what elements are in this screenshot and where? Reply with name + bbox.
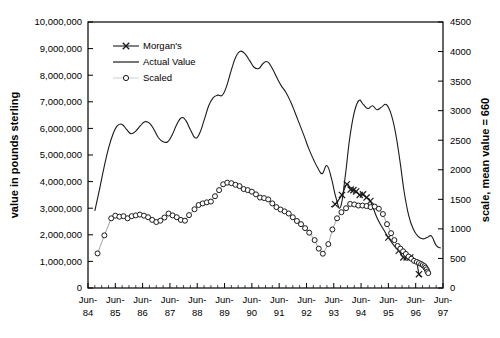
data-point-marker [182,218,187,223]
y-axis-right-title: scale, mean value = 660 [479,98,491,222]
data-point-marker [389,231,394,236]
data-point-marker [344,206,349,211]
x-tick-label-year: 97 [438,307,449,318]
x-tick-label: Jun- [352,294,370,305]
y2-tick-label: 0 [450,282,455,293]
data-point-marker [208,199,213,204]
legend-label: Morgan's [143,40,182,51]
y-tick-label: 4,000,000 [40,176,82,187]
y2-tick-label: 2500 [450,135,471,146]
data-point-marker [217,188,222,193]
x-tick-label: Jun- [434,294,452,305]
x-tick-label: Jun- [215,294,233,305]
x-tick-label-year: 93 [328,307,339,318]
data-point-marker [270,201,275,206]
data-point-marker [339,210,344,215]
y2-tick-label: 3000 [450,105,471,116]
x-tick-label: Jun- [79,294,97,305]
y-tick-label: 7,000,000 [40,96,82,107]
data-point-marker [266,197,271,202]
x-tick-label-year: 86 [137,307,148,318]
data-point-marker [312,238,317,243]
data-point-marker [303,226,308,231]
y-tick-label: 5,000,000 [40,149,82,160]
y2-tick-label: 1000 [450,223,471,234]
x-tick-label-year: 89 [219,307,230,318]
x-tick-label-year: 94 [356,307,367,318]
x-tick-label: Jun- [270,294,288,305]
data-point-marker [192,207,197,212]
y-tick-label: 3,000,000 [40,203,82,214]
legend-label: Scaled [143,72,172,83]
legend-circle-marker [123,75,128,80]
y2-tick-label: 4500 [450,16,471,27]
y-tick-label: 8,000,000 [40,70,82,81]
data-point-marker [335,216,340,221]
x-tick-label: Jun- [243,294,261,305]
data-point-marker [392,238,397,243]
x-tick-label-year: 85 [110,307,121,318]
x-tick-label: Jun- [188,294,206,305]
y-tick-label: 6,000,000 [40,123,82,134]
line-chart: 01,000,0002,000,0003,000,0004,000,0005,0… [0,0,500,338]
x-tick-label-year: 92 [301,307,312,318]
x-tick-label: Jun- [106,294,124,305]
y-tick-label: 9,000,000 [40,43,82,54]
x-tick-label-year: 95 [383,307,394,318]
data-point-marker [316,246,321,251]
y2-tick-label: 4000 [450,46,471,57]
y2-tick-label: 500 [450,253,466,264]
data-point-marker [376,206,381,211]
y-axis-title: value in pounds sterling [8,92,20,219]
x-tick-label: Jun- [406,294,424,305]
chart-container: 01,000,0002,000,0003,000,0004,000,0005,0… [0,0,500,338]
x-tick-label-year: 90 [247,307,258,318]
y-tick-label: 10,000,000 [34,16,82,27]
data-point-marker [290,215,295,220]
x-tick-label-year: 91 [274,307,285,318]
data-point-marker [162,215,167,220]
legend-label: Actual Value [143,56,196,67]
y2-tick-label: 3500 [450,76,471,87]
x-tick-label-year: 96 [410,307,421,318]
x-tick-label: Jun- [161,294,179,305]
x-tick-label: Jun- [379,294,397,305]
data-point-marker [299,222,304,227]
x-tick-label: Jun- [297,294,315,305]
x-tick-label-year: 84 [83,307,94,318]
data-point-marker [385,222,390,227]
data-point-marker [326,242,331,247]
data-point-marker [330,227,335,232]
y-tick-label: 1,000,000 [40,256,82,267]
data-point-marker [95,251,100,256]
y2-tick-label: 1500 [450,194,471,205]
data-point-marker [187,213,192,218]
data-point-marker [286,211,291,216]
y2-tick-label: 2000 [450,164,471,175]
x-tick-label: Jun- [133,294,151,305]
x-tick-label: Jun- [325,294,343,305]
data-point-marker [307,230,312,235]
x-tick-label-year: 88 [192,307,203,318]
x-tick-label-year: 87 [165,307,176,318]
data-point-marker [212,194,217,199]
data-point-marker [320,251,325,256]
data-point-marker [102,233,107,238]
y-tick-label: 2,000,000 [40,229,82,240]
data-point-marker [380,212,385,217]
y-tick-label: 0 [77,282,82,293]
data-point-marker [426,271,431,276]
